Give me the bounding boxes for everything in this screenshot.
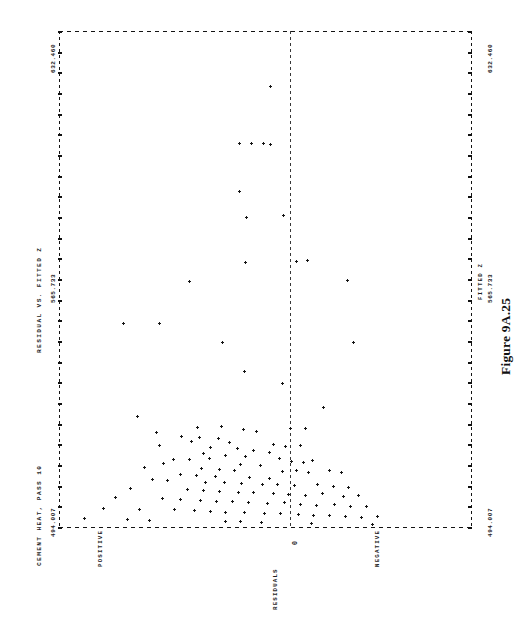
data-point — [349, 505, 352, 508]
data-point — [262, 142, 265, 145]
data-point — [342, 495, 345, 498]
plot-border-bottom — [59, 527, 472, 528]
data-point — [315, 504, 318, 507]
data-point — [233, 469, 236, 472]
data-point — [243, 511, 246, 514]
figure-page: CEMENT HEAT, PASS 10 RESIDUAL VS. FITTED… — [0, 0, 520, 628]
data-point — [114, 496, 117, 499]
axis-tick — [468, 341, 472, 343]
data-point — [195, 474, 198, 477]
y-axis-tick-label-mid-right: 565.733 — [487, 274, 494, 303]
data-point — [196, 426, 199, 429]
x-axis-category-negative: NEGATIVE — [374, 530, 381, 567]
axis-tick — [58, 486, 62, 488]
axis-tick — [468, 506, 472, 508]
axis-tick — [468, 238, 472, 240]
data-point — [186, 488, 189, 491]
data-point — [180, 435, 183, 438]
data-point — [190, 440, 193, 443]
data-point — [312, 514, 315, 517]
data-point — [360, 516, 363, 519]
data-point — [202, 489, 205, 492]
data-point — [240, 482, 243, 485]
data-point — [322, 406, 325, 409]
data-point — [297, 513, 300, 516]
y-axis-tick-label-bottom-left: 494.007 — [50, 508, 57, 537]
data-point — [352, 341, 355, 344]
data-point — [290, 460, 293, 463]
axis-tick — [468, 52, 472, 54]
axis-tick — [58, 217, 62, 219]
axis-tick — [58, 196, 62, 198]
axis-tick — [58, 72, 62, 74]
axis-tick — [468, 93, 472, 95]
data-point — [333, 503, 336, 506]
data-point — [346, 279, 349, 282]
axis-tick — [468, 424, 472, 426]
data-point — [328, 514, 331, 517]
data-point — [209, 510, 212, 513]
data-point — [299, 444, 302, 447]
data-point — [179, 498, 182, 501]
axis-tick — [468, 279, 472, 281]
data-point — [83, 517, 86, 520]
y-axis-tick-label-top-left: 632.460 — [50, 44, 57, 73]
axis-tick — [58, 279, 62, 281]
data-point — [224, 454, 227, 457]
data-point — [247, 501, 250, 504]
axis-tick — [58, 93, 62, 95]
axis-tick — [468, 320, 472, 322]
axis-tick — [58, 362, 62, 364]
data-point — [193, 509, 196, 512]
data-point — [376, 515, 379, 518]
data-point — [282, 214, 285, 217]
data-point — [259, 464, 262, 467]
data-point — [295, 260, 298, 263]
data-point — [199, 499, 202, 502]
data-point — [158, 322, 161, 325]
data-point — [244, 455, 247, 458]
data-point — [283, 501, 286, 504]
data-point — [328, 469, 331, 472]
data-point — [284, 445, 287, 448]
data-point — [239, 520, 242, 523]
data-point — [261, 483, 264, 486]
data-point — [347, 486, 350, 489]
data-point — [220, 425, 223, 428]
axis-tick — [468, 258, 472, 260]
data-point — [173, 508, 176, 511]
axis-tick — [58, 300, 62, 302]
data-point — [166, 479, 169, 482]
data-point — [221, 341, 224, 344]
data-point — [231, 500, 234, 503]
data-point — [371, 523, 374, 526]
axis-tick — [468, 114, 472, 116]
data-point — [158, 444, 161, 447]
plot-border-top — [59, 31, 472, 32]
data-point — [302, 461, 305, 464]
x-axis-category-positive: POSITIVE — [97, 530, 104, 567]
axis-tick — [468, 300, 472, 302]
data-point — [218, 468, 221, 471]
data-point — [188, 280, 191, 283]
axis-tick — [468, 465, 472, 467]
plot-subtitle: RESIDUAL VS. FITTED Z — [36, 247, 43, 353]
axis-tick — [58, 527, 62, 529]
data-point — [266, 502, 269, 505]
data-point — [228, 441, 231, 444]
data-point — [242, 428, 245, 431]
data-point — [202, 452, 205, 455]
data-point — [269, 143, 272, 146]
data-point — [279, 512, 282, 515]
data-point — [299, 503, 302, 506]
data-point — [223, 481, 226, 484]
axis-tick — [468, 196, 472, 198]
scatter-plot-area — [59, 31, 472, 528]
data-point — [218, 490, 221, 493]
axis-tick — [58, 134, 62, 136]
data-point — [136, 415, 139, 418]
y-axis-tick-label-top-right: 632.460 — [487, 44, 494, 73]
data-point — [289, 427, 292, 430]
data-point — [214, 475, 217, 478]
axis-tick — [468, 217, 472, 219]
